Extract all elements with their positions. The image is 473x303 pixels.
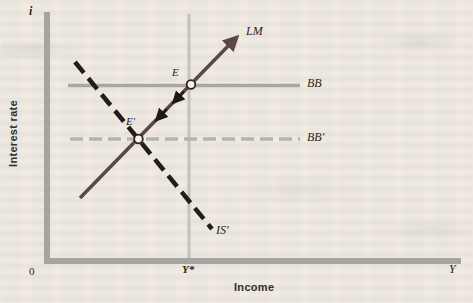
point-E-marker	[187, 80, 196, 89]
y-axis	[44, 12, 50, 264]
bb-curve-label: BB	[307, 77, 322, 89]
y-axis-symbol: i	[29, 5, 32, 17]
point-E-prime-label: E′	[126, 116, 135, 127]
adjustment-arrow-1	[174, 92, 185, 103]
y-axis-title: Interest rate	[8, 94, 19, 174]
x-axis-symbol: Y	[449, 263, 456, 275]
origin-label: 0	[29, 266, 35, 277]
bb-prime-curve-label: BB′	[307, 131, 324, 143]
point-E-label: E	[172, 67, 179, 78]
islm-bb-diagram-canvas	[0, 0, 473, 303]
scanned-textbook-figure: i LM BB BB′ IS′ E E′ 0 Y* Y Interest rat…	[0, 0, 473, 303]
x-axis-title: Income	[234, 282, 274, 293]
x-axis	[44, 258, 461, 264]
y-star-guide-line	[188, 14, 191, 258]
x-tick-label-y-star: Y*	[182, 264, 194, 275]
point-E-prime-marker	[134, 135, 143, 144]
adjustment-arrow-2	[157, 109, 168, 120]
lm-curve	[80, 42, 232, 198]
lm-curve-label: LM	[246, 25, 263, 37]
is-prime-curve-label: IS′	[216, 224, 229, 236]
lm-curve-tip	[228, 37, 237, 46]
